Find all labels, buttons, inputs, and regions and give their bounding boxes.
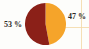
pie-label-segment-b: 53 % <box>4 21 22 29</box>
pie-svg <box>25 3 66 45</box>
pie-chart-figure: 53 % 47 % <box>0 0 89 49</box>
pie-graphic <box>25 3 66 45</box>
pie-slice-segment-a <box>46 3 66 45</box>
gridline-vertical <box>81 0 82 49</box>
pie-label-segment-a: 47 % <box>68 13 86 21</box>
